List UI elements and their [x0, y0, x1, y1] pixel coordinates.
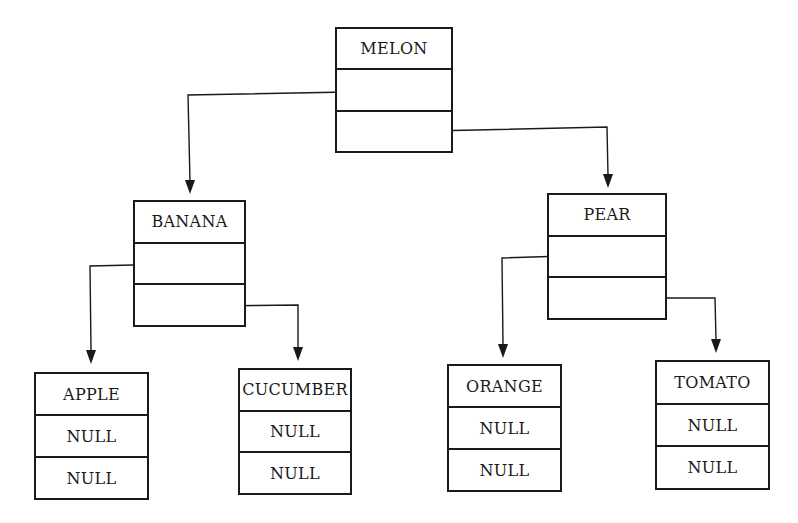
node-label: CUCUMBER [240, 370, 350, 410]
node-label: BANANA [135, 202, 244, 242]
tree-diagram: MELON BANANA PEAR APPLE NULL NULL CUCUMB… [0, 0, 798, 523]
node-label: MELON [337, 29, 451, 68]
edge-melon-pear [429, 127, 613, 188]
right-pointer-cell: NULL [449, 448, 560, 490]
right-pointer-cell: NULL [36, 456, 147, 498]
node-label: ORANGE [449, 366, 560, 406]
arrowhead-icon [711, 339, 721, 353]
right-pointer-cell [549, 276, 665, 318]
arrowhead-icon [185, 180, 195, 194]
left-pointer-cell: NULL [449, 406, 560, 448]
node-label: TOMATO [657, 362, 768, 403]
arrowhead-icon [86, 350, 96, 364]
arrowhead-icon [293, 347, 303, 361]
node-banana: BANANA [133, 200, 246, 327]
right-pointer-cell [135, 283, 244, 325]
right-pointer-cell [337, 110, 451, 151]
node-tomato: TOMATO NULL NULL [655, 360, 770, 490]
arrowhead-icon [498, 344, 508, 358]
node-label: PEAR [549, 195, 665, 235]
left-pointer-cell: NULL [36, 414, 147, 456]
node-apple: APPLE NULL NULL [34, 372, 149, 500]
left-pointer-cell [135, 242, 244, 284]
node-melon: MELON [335, 27, 453, 153]
node-orange: ORANGE NULL NULL [447, 364, 562, 492]
left-pointer-cell [549, 235, 665, 277]
node-label: APPLE [36, 374, 147, 414]
left-pointer-cell [337, 68, 451, 109]
arrowhead-icon [603, 174, 613, 188]
node-pear: PEAR [547, 193, 667, 320]
left-pointer-cell: NULL [657, 403, 768, 446]
node-cucumber: CUCUMBER NULL NULL [238, 368, 352, 495]
left-pointer-cell: NULL [240, 410, 350, 452]
right-pointer-cell: NULL [657, 445, 768, 488]
right-pointer-cell: NULL [240, 451, 350, 493]
